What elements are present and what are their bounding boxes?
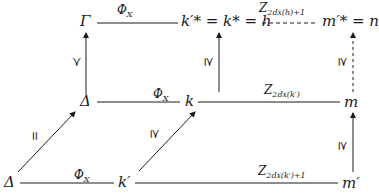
- label-succeq: ⪰: [203, 57, 215, 67]
- label-vert-left: ≻: [72, 56, 82, 68]
- label-z-k-prime-plus-1: Z2dX(k′)+1: [258, 165, 306, 180]
- label-phi-x-bot: ΦX: [74, 169, 90, 184]
- node-k-star-h: k′* = k* = h: [181, 14, 271, 29]
- node-delta-bot: Δ: [4, 175, 15, 190]
- label-phi: Φ: [153, 87, 163, 101]
- label-vert-middle: ⪰: [204, 56, 214, 68]
- label-succeq: ⪰: [149, 129, 161, 139]
- label-diag-left: =: [30, 130, 40, 142]
- arrow-delta-to-delta: [18, 112, 75, 172]
- label-sub: X: [163, 94, 169, 103]
- label-sub: 2d: [267, 8, 277, 17]
- label-diag-middle: ⪰: [150, 128, 160, 140]
- node-k: k: [185, 94, 194, 109]
- node-m-star-n: m′* = n: [322, 14, 379, 29]
- label-sub: 2d: [266, 171, 276, 180]
- node-m: m: [344, 95, 358, 110]
- label-vert-right-bottom: ⪰: [338, 140, 348, 152]
- label-vert-right-dashed: ⪰: [338, 56, 348, 68]
- node-gamma: Γ: [80, 14, 90, 29]
- label-phi: Φ: [74, 168, 84, 182]
- label-z-k-prime: Z2dX(k′): [264, 84, 300, 99]
- label-phi-x-top: ΦX: [117, 4, 133, 19]
- node-delta-mid: Δ: [80, 94, 91, 109]
- label-phi-x-mid: ΦX: [153, 88, 169, 103]
- label-tail: (k′)+1: [281, 171, 306, 180]
- label-z-h: Z2dX(h)+1: [259, 2, 305, 17]
- label-sub: X: [84, 175, 90, 184]
- node-m-prime: m′: [342, 176, 360, 191]
- label-succeq: ⪰: [337, 141, 349, 151]
- label-tail: (h)+1: [282, 8, 305, 17]
- label-sub: 2d: [272, 90, 282, 99]
- label-tail: (k′): [287, 90, 300, 99]
- label-sub: X: [127, 10, 133, 19]
- label-equals: =: [29, 131, 41, 141]
- label-succ: ≻: [71, 57, 83, 67]
- arrow-k-prime-to-k: [139, 112, 195, 171]
- label-phi: Φ: [117, 3, 127, 17]
- node-k-prime: k′: [118, 175, 131, 190]
- commutative-diagram: Γ k′* = k* = h m′* = n Δ k m Δ k′ m′ ΦX …: [0, 0, 379, 193]
- label-succeq: ⪰: [337, 57, 349, 67]
